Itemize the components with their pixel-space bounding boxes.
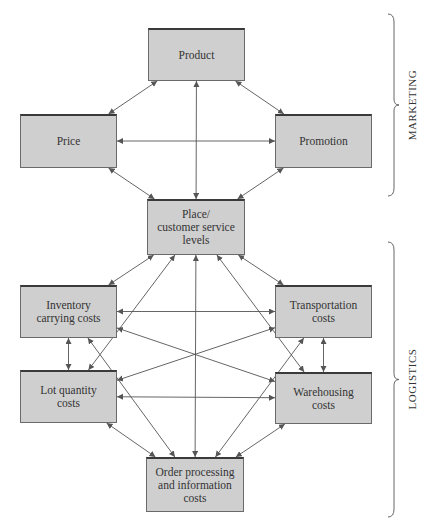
node-label: Place/ customer service levels [157, 208, 235, 247]
node-label: Inventory carrying costs [36, 299, 100, 325]
node-warehousing: Warehousing costs [275, 372, 372, 424]
brace-marketing [388, 14, 399, 196]
edge-lot_quantity-warehousing [117, 397, 275, 398]
node-lot-quantity: Lot quantity costs [20, 370, 117, 423]
edge-product-price [108, 81, 157, 114]
edge-place-order_processing [195, 255, 196, 457]
brace-logistics [388, 242, 399, 517]
edge-promotion-place [238, 168, 284, 199]
node-label: Order processing and information costs [156, 466, 235, 505]
node-order-processing: Order processing and information costs [146, 457, 244, 512]
node-label: Product [179, 49, 215, 62]
node-label: Transportation costs [290, 299, 357, 325]
edge-place-transportation [238, 255, 283, 285]
node-label: Promotion [299, 135, 348, 148]
edge-price-place [109, 168, 155, 199]
node-price: Price [20, 114, 117, 168]
node-inventory: Inventory carrying costs [20, 285, 117, 338]
edge-warehousing-order_processing [236, 424, 285, 457]
group-label-marketing: MARKETING [406, 65, 418, 145]
edge-lot_quantity-order_processing [107, 423, 156, 457]
edge-product-promotion [235, 81, 283, 114]
node-transportation: Transportation costs [275, 285, 372, 338]
node-label: Price [57, 135, 81, 148]
node-product: Product [148, 28, 245, 81]
group-label-logistics: LOGISTICS [406, 339, 418, 419]
group-braces [388, 14, 399, 517]
edge-place-inventory [108, 255, 153, 285]
node-label: Lot quantity costs [40, 384, 97, 410]
node-promotion: Promotion [275, 114, 372, 168]
node-place: Place/ customer service levels [147, 199, 245, 255]
node-label: Warehousing costs [293, 386, 353, 412]
